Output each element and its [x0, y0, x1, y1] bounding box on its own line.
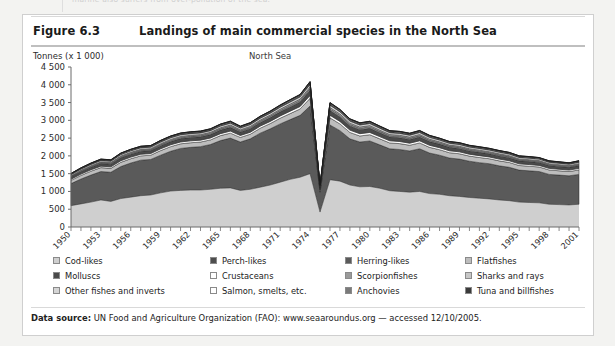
y-tick-label: 1 000 — [41, 186, 65, 196]
legend-item[interactable]: Perch-likes — [210, 253, 266, 268]
x-tick-label: 1983 — [379, 229, 401, 249]
stacked-area-chart: 05001 0001 5002 0002 5003 0003 5004 0004… — [31, 63, 587, 249]
x-tick-label: 1998 — [529, 229, 551, 249]
y-tick-label: 3 500 — [41, 98, 65, 108]
legend-item[interactable]: Molluscs — [53, 268, 100, 283]
figure-number: Figure 6.3 — [33, 24, 100, 38]
x-tick-label: 1950 — [51, 229, 73, 249]
legend-item[interactable]: Scorpionfishes — [345, 268, 417, 283]
x-tick-label: 1989 — [439, 229, 461, 249]
chart-subtitle: North Sea — [249, 51, 291, 61]
legend-item[interactable]: Cod-likes — [53, 253, 103, 268]
figure-title: Landings of main commercial species in t… — [139, 24, 497, 38]
figure-panel: Figure 6.3 Landings of main commercial s… — [22, 14, 594, 336]
page-left-rule — [62, 0, 63, 12]
legend-label: Tuna and billfishes — [477, 286, 554, 296]
legend-row: Cod-likes Perch-likes Herring-likes Flat… — [53, 253, 573, 268]
legend-swatch — [210, 272, 217, 279]
legend-item[interactable]: Sharks and rays — [465, 268, 544, 283]
y-tick-labels-group: 05001 0001 5002 0002 5003 0003 5004 0004… — [41, 63, 65, 232]
legend-swatch — [210, 257, 217, 264]
legend-item[interactable]: Crustaceans — [210, 268, 273, 283]
x-tick-label: 1974 — [290, 229, 312, 249]
cutoff-text-fragment: marine also suffers from over-pollution … — [72, 0, 270, 4]
y-axis-label: Tonnes (x 1 000) — [33, 51, 104, 61]
legend-item[interactable]: Salmon, smelts, etc. — [210, 283, 307, 298]
legend-label: Perch-likes — [222, 256, 266, 266]
legend-swatch — [210, 287, 217, 294]
legend-swatch — [465, 257, 472, 264]
legend-label: Salmon, smelts, etc. — [222, 286, 307, 296]
data-source-body: UN Food and Agriculture Organization (FA… — [91, 313, 482, 323]
legend-label: Crustaceans — [222, 271, 273, 281]
y-tick-label: 3 000 — [41, 115, 65, 125]
legend-label: Flatfishes — [477, 256, 517, 266]
figure-footer: Data source: UN Food and Agriculture Org… — [31, 307, 585, 323]
x-tick-label: 1977 — [320, 229, 342, 249]
x-tick-label: 1953 — [80, 229, 102, 249]
plot-wrapper: 05001 0001 5002 0002 5003 0003 5004 0004… — [31, 63, 587, 249]
data-source-text: Data source: UN Food and Agriculture Org… — [31, 313, 585, 323]
legend-item[interactable]: Tuna and billfishes — [465, 283, 554, 298]
y-tick-label: 1 500 — [41, 169, 65, 179]
legend-item[interactable]: Herring-likes — [345, 253, 409, 268]
legend-label: Cod-likes — [65, 256, 103, 266]
legend-swatch — [53, 287, 60, 294]
legend-label: Anchovies — [357, 286, 399, 296]
legend-swatch — [53, 272, 60, 279]
data-source-prefix: Data source: — [31, 313, 91, 323]
legend-swatch — [465, 272, 472, 279]
legend-item[interactable]: Other fishes and inverts — [53, 283, 165, 298]
x-tick-label: 1959 — [140, 229, 162, 249]
legend-row: Molluscs Crustaceans Scorpionfishes Shar… — [53, 268, 573, 283]
x-tick-label: 1992 — [469, 229, 491, 249]
legend-label: Herring-likes — [357, 256, 409, 266]
x-tick-label: 1965 — [200, 229, 222, 249]
legend-row: Other fishes and inverts Salmon, smelts,… — [53, 283, 573, 298]
area-series-group — [71, 82, 579, 227]
chart-area: Tonnes (x 1 000) North Sea 05001 0001 50… — [31, 49, 585, 249]
y-tick-label: 4 500 — [41, 63, 65, 72]
legend-swatch — [345, 257, 352, 264]
x-tick-label: 1995 — [499, 229, 521, 249]
legend-item[interactable]: Flatfishes — [465, 253, 517, 268]
y-tick-label: 2 500 — [41, 133, 65, 143]
page-top-cutoff-text: marine also suffers from over-pollution … — [0, 0, 615, 12]
x-tick-label: 1962 — [170, 229, 192, 249]
legend-item[interactable]: Anchovies — [345, 283, 399, 298]
y-tick-label: 500 — [49, 204, 65, 214]
x-tick-label: 1986 — [409, 229, 431, 249]
legend-swatch — [345, 272, 352, 279]
chart-legend: Cod-likes Perch-likes Herring-likes Flat… — [53, 253, 573, 299]
figure-header: Figure 6.3 Landings of main commercial s… — [31, 19, 585, 47]
x-tick-label: 1980 — [349, 229, 371, 249]
x-tick-label: 1971 — [260, 229, 282, 249]
x-tick-label: 1968 — [230, 229, 252, 249]
legend-label: Molluscs — [65, 271, 100, 281]
legend-label: Sharks and rays — [477, 271, 544, 281]
y-tick-label: 2 000 — [41, 151, 65, 161]
x-tick-label: 1956 — [110, 229, 132, 249]
legend-swatch — [465, 287, 472, 294]
legend-label: Scorpionfishes — [357, 271, 417, 281]
legend-label: Other fishes and inverts — [65, 286, 165, 296]
x-tick-labels-group: 1950195319561959196219651968197119741977… — [51, 229, 581, 249]
legend-swatch — [345, 287, 352, 294]
legend-swatch — [53, 257, 60, 264]
y-tick-label: 4 000 — [41, 80, 65, 90]
x-tick-label: 2001 — [559, 229, 581, 249]
